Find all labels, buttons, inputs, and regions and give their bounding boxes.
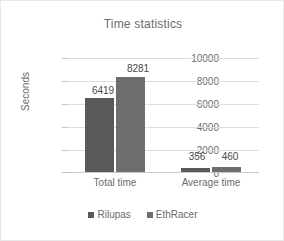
gridline-8000 xyxy=(67,81,259,82)
bar-rilupas-average-time[interactable] xyxy=(181,168,210,172)
legend-swatch-icon-rilupas xyxy=(88,212,94,218)
bar-ethracer-average-time[interactable] xyxy=(212,167,241,172)
legend-swatch-icon-ethracer xyxy=(147,212,153,218)
legend-label-ethracer: EthRacer xyxy=(156,209,198,220)
legend: Rilupas EthRacer xyxy=(1,209,284,220)
x-axis-category-total-time: Total time xyxy=(94,177,137,188)
x-axis-category-average-time: Average time xyxy=(182,177,241,188)
legend-item-ethracer[interactable]: EthRacer xyxy=(147,209,198,220)
data-label-rilupas-average-time: 356 xyxy=(189,151,206,162)
bar-rilupas-total-time[interactable] xyxy=(85,98,114,172)
legend-item-rilupas[interactable]: Rilupas xyxy=(88,209,130,220)
gridline-10000 xyxy=(67,58,259,59)
data-label-ethracer-average-time: 460 xyxy=(222,151,239,162)
y-axis-title: Seconds xyxy=(20,62,31,122)
bar-chart: Time statistics 10000 8000 6000 4000 200… xyxy=(0,0,284,241)
x-axis-baseline xyxy=(67,172,259,173)
data-label-ethracer-total-time: 8281 xyxy=(127,63,149,74)
legend-label-rilupas: Rilupas xyxy=(97,209,130,220)
bar-ethracer-total-time[interactable] xyxy=(116,77,145,172)
data-label-rilupas-total-time: 6419 xyxy=(92,85,114,96)
chart-title: Time statistics xyxy=(1,17,284,31)
